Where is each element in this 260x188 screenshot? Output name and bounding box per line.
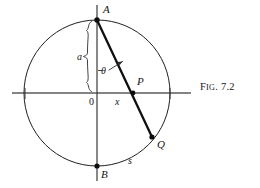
figure-caption-number: . 7.2 — [215, 81, 234, 92]
point-label-b: B — [101, 168, 108, 180]
angle-label-theta: θ — [101, 65, 106, 76]
point-label-q: Q — [157, 138, 165, 150]
point-marker-a — [94, 17, 99, 22]
figure-caption: FIG. 7.2 — [200, 81, 235, 92]
point-label-a: A — [102, 3, 110, 15]
figure-container: A P Q B 0 a θ x s FIG. 7.2 — [0, 0, 260, 188]
radius-brace — [84, 22, 92, 92]
origin-label: 0 — [89, 96, 94, 107]
arc-label-s: s — [128, 155, 132, 166]
geometry-diagram: A P Q B 0 a θ x s — [0, 0, 260, 188]
radius-label-a: a — [77, 51, 82, 62]
point-label-p: P — [136, 75, 144, 87]
figure-caption-smallcaps: IG — [206, 83, 215, 92]
point-marker-p — [131, 91, 136, 96]
distance-label-x: x — [114, 96, 120, 107]
point-marker-q — [149, 134, 154, 139]
point-marker-b — [94, 163, 99, 168]
